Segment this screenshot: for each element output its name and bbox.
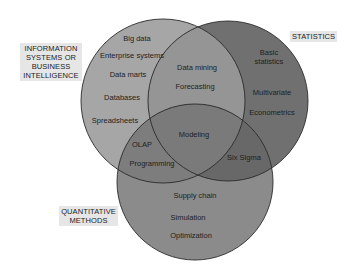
- item-data-marts: Data marts: [110, 70, 147, 79]
- item-big-data: Big data: [123, 34, 151, 43]
- item-econometrics: Econometrics: [249, 108, 294, 117]
- item-basic-statistics: Basic statistics: [255, 48, 284, 66]
- item-optimization: Optimization: [170, 231, 212, 240]
- item-spreadsheets: Spreadsheets: [92, 116, 138, 125]
- item-data-mining: Data mining: [177, 63, 217, 72]
- label-line: INFORMATION: [22, 44, 80, 53]
- item-forecasting: Forecasting: [175, 82, 214, 91]
- label-information-systems: INFORMATION SYSTEMS OR BUSINESS INTELLIG…: [20, 43, 82, 81]
- item-enterprise-systems: Enterprise systems: [100, 51, 164, 60]
- item-multivariate: Multivariate: [253, 88, 291, 97]
- item-databases: Databases: [104, 93, 140, 102]
- item-olap: OLAP: [132, 140, 152, 149]
- label-line: METHODS: [61, 216, 116, 225]
- label-quantitative-methods: QUANTITATIVE METHODS: [59, 206, 118, 226]
- label-line: BUSINESS: [22, 62, 80, 71]
- label-line: INTELLIGENCE: [22, 71, 80, 80]
- item-six-sigma: Six Sigma: [227, 153, 261, 162]
- label-line: SYSTEMS OR: [22, 53, 80, 62]
- item-programming: Programming: [129, 159, 174, 168]
- label-line: QUANTITATIVE: [61, 207, 116, 216]
- item-line: statistics: [255, 57, 284, 66]
- item-supply-chain: Supply chain: [174, 191, 217, 200]
- label-statistics: STATISTICS: [290, 31, 337, 42]
- item-line: Basic: [255, 48, 284, 57]
- item-simulation: Simulation: [170, 213, 205, 222]
- label-line: STATISTICS: [292, 32, 335, 41]
- item-modeling: Modeling: [179, 130, 209, 139]
